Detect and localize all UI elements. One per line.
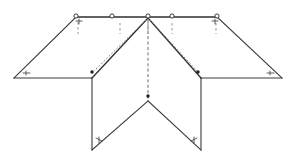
figure-root bbox=[0, 0, 299, 166]
node-3-circle-icon bbox=[146, 14, 150, 18]
folded-sheet-diagram bbox=[0, 0, 299, 166]
node-1-circle-icon bbox=[74, 14, 78, 18]
dot-left-inner bbox=[90, 70, 93, 73]
node-5-circle-icon bbox=[215, 14, 219, 18]
node-2-circle-icon bbox=[110, 14, 114, 18]
dot-center-vertex bbox=[146, 94, 149, 97]
node-4-circle-icon bbox=[170, 14, 174, 18]
dot-right-inner bbox=[196, 70, 199, 73]
canvas-background bbox=[0, 0, 299, 166]
